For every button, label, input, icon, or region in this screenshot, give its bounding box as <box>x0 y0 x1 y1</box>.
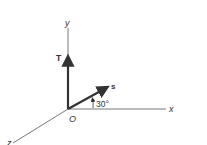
z-axis-label: z <box>6 138 12 145</box>
vector-diagram: y x z O T s 30° <box>0 0 207 145</box>
vector-s-label: s <box>111 82 116 91</box>
angle-label: 30° <box>96 99 109 109</box>
z-axis <box>13 109 68 143</box>
vector-t-label: T <box>56 53 62 63</box>
y-axis-label: y <box>64 18 70 28</box>
x-axis-label: x <box>168 104 174 114</box>
angle-arc <box>93 99 94 108</box>
origin-label: O <box>69 114 76 124</box>
